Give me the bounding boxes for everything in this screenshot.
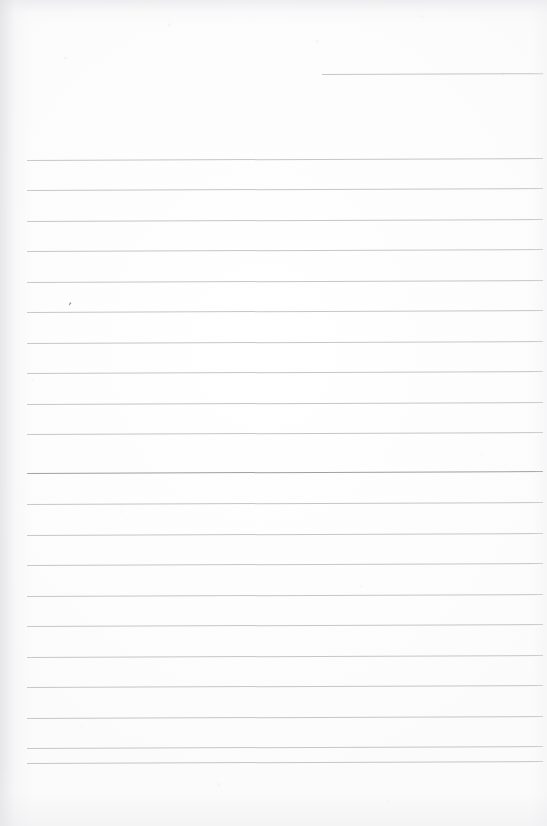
- paper-background: [0, 0, 547, 826]
- scanned-page: ʹ: [0, 0, 547, 826]
